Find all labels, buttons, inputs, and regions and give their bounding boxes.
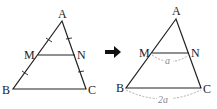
right-label-m: M [139,46,150,60]
left-label-m: M [24,48,35,62]
midpoint-theorem-diagram: A M N B C a 2a A M N B C [0,0,217,109]
right-triangle: a 2a A M N B C [116,4,211,105]
right-label-c: C [203,82,211,96]
right-label-n: N [191,46,200,60]
left-label-a: A [58,7,67,21]
right-label-b: B [116,81,124,95]
bc-length-label: 2a [158,94,168,105]
left-label-n: N [77,48,86,62]
right-label-a: A [172,4,181,18]
right-arrow-icon [105,46,121,58]
tick-an [66,38,72,39]
tick-nc [78,71,84,72]
left-label-b: B [2,83,10,97]
mn-length-label: a [165,55,170,66]
left-label-c: C [88,83,96,97]
left-triangle: A M N B C [2,7,96,97]
